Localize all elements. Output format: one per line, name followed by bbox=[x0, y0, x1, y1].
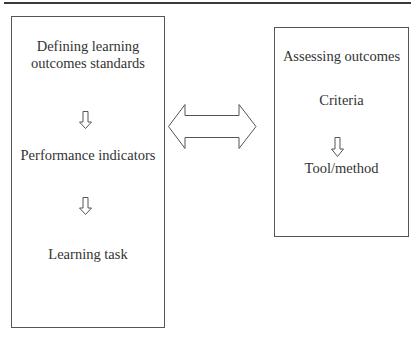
down-arrow-icon bbox=[79, 197, 92, 215]
left-box-defining-outcomes: Defining learning outcomes standards Per… bbox=[11, 16, 165, 328]
left-box-performance-indicators: Performance indicators bbox=[12, 147, 164, 164]
right-box-title: Assessing outcomes bbox=[275, 48, 408, 65]
down-arrow-icon bbox=[331, 137, 344, 157]
left-box-title-line1: Defining learning bbox=[12, 38, 164, 55]
down-arrow-icon bbox=[79, 111, 92, 129]
double-arrow-icon bbox=[168, 104, 257, 150]
top-rule bbox=[4, 2, 411, 4]
right-box-criteria: Criteria bbox=[275, 92, 408, 109]
right-box-tool-method: Tool/method bbox=[275, 160, 408, 177]
right-box-assessing-outcomes: Assessing outcomes Criteria Tool/method bbox=[274, 27, 409, 237]
left-box-title-line2: outcomes standards bbox=[12, 55, 164, 72]
left-box-learning-task: Learning task bbox=[12, 246, 164, 263]
